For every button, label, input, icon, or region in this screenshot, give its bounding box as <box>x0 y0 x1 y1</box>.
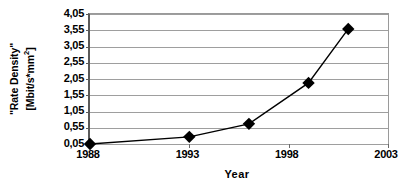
data-series-line <box>90 14 388 144</box>
y-axis-title-superscript: 2 <box>22 51 31 55</box>
x-axis-tick-label: 1998 <box>257 148 317 161</box>
chart-figure: "Rate Density" [Mbit/s*mm2] 0,050,551,05… <box>0 0 412 194</box>
y-axis-tick-label: 0,05 <box>46 138 84 149</box>
data-point-marker <box>183 131 195 143</box>
y-axis-tick-label: 1,55 <box>46 89 84 100</box>
y-axis-title-bracket: ] <box>23 47 35 50</box>
x-axis-title: Year <box>88 168 386 180</box>
y-axis-tick-label: 2,55 <box>46 56 84 67</box>
y-axis-tick-label: 0,55 <box>46 121 84 132</box>
series-markers <box>84 23 355 150</box>
y-axis-title-line2: [Mbit/s*mm2] <box>21 43 36 115</box>
y-axis-tick-label: 2,05 <box>46 73 84 84</box>
y-axis-tick-label: 3,55 <box>46 24 84 35</box>
y-axis-title: "Rate Density" [Mbit/s*mm2] <box>2 12 42 146</box>
gridline <box>90 144 388 145</box>
plot-area <box>88 13 389 145</box>
data-point-marker <box>342 23 354 35</box>
y-axis-tick-labels: 0,050,551,051,552,052,553,053,554,05 <box>44 0 84 194</box>
data-point-marker <box>243 118 255 130</box>
y-axis-title-unit: [Mbit/s*mm <box>23 55 35 111</box>
x-axis-tick-label: 2003 <box>356 148 412 161</box>
y-axis-title-line1: "Rate Density" <box>8 43 21 115</box>
x-axis-tick-label: 1988 <box>58 148 118 161</box>
y-axis-tick-label: 4,05 <box>46 8 84 19</box>
y-axis-tick-label: 1,05 <box>46 105 84 116</box>
x-axis-tick-label: 1993 <box>157 148 217 161</box>
data-point-marker <box>302 77 314 89</box>
x-axis-tick-labels: 1988199319982003 <box>0 148 412 164</box>
y-axis-tick-label: 3,05 <box>46 40 84 51</box>
